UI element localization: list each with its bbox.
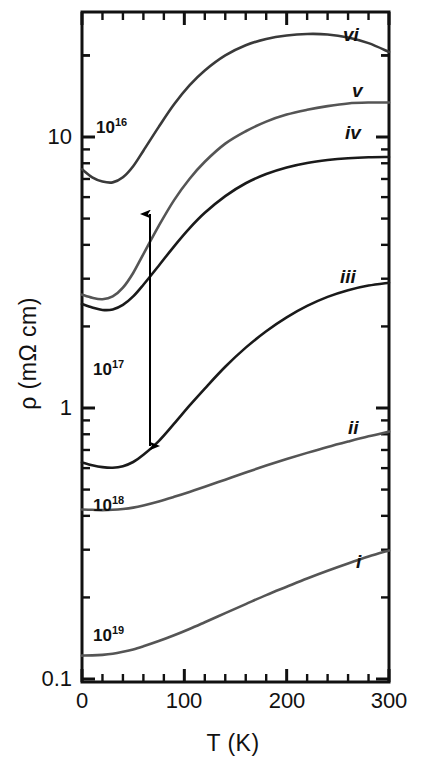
plot-canvas (0, 0, 426, 767)
density-1e17: 1017 (93, 358, 124, 380)
density-1e19: 1019 (93, 624, 124, 646)
curve-iii (82, 283, 389, 468)
x-axis-title: T (K) (163, 730, 303, 757)
resistivity-vs-temperature-figure: 10 1 0.1 0 100 200 300 ρ (mΩ cm) T (K) i… (0, 0, 426, 767)
xtick-label-0: 0 (62, 688, 102, 714)
y-axis-title: ρ (mΩ cm) (15, 274, 42, 434)
curve-label-iv: iv (345, 122, 361, 144)
curve-label-iii: iii (340, 266, 356, 288)
curve-i (82, 550, 389, 655)
axis-ticks (82, 12, 389, 682)
density-1e16: 1016 (96, 116, 127, 138)
plot-frame (82, 12, 389, 682)
curve-ii (82, 432, 389, 510)
xtick-label-300: 300 (359, 688, 419, 714)
data-curves (82, 34, 389, 656)
curve-label-i: i (356, 551, 361, 573)
density-1e18: 1018 (93, 494, 124, 516)
curve-label-ii: ii (348, 417, 359, 439)
xtick-label-200: 200 (257, 688, 317, 714)
curve-label-v: v (352, 80, 363, 102)
ytick-label-10: 10 (16, 124, 72, 150)
xtick-label-100: 100 (154, 688, 214, 714)
curve-label-vi: vi (343, 24, 359, 46)
curve-vi (82, 34, 389, 183)
